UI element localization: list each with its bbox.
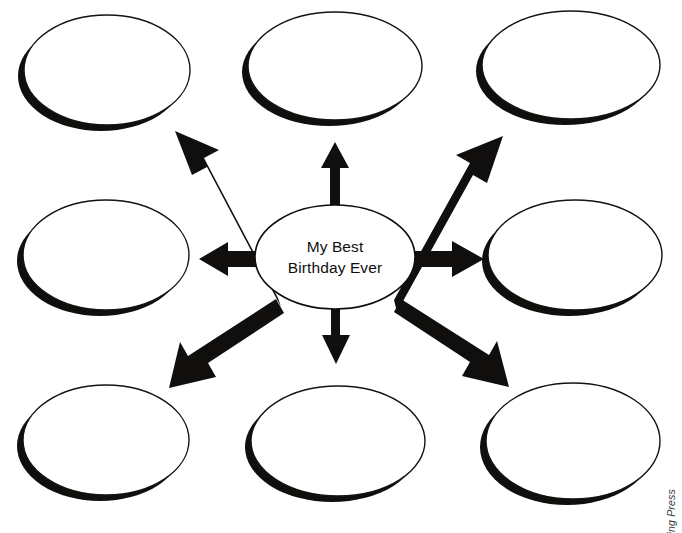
middle-right-oval-body[interactable] [488,200,662,310]
bottom-left-oval[interactable] [17,385,189,501]
center-label-line1: My Best [307,238,364,255]
arrow-to-top-right-icon [394,136,503,312]
top-left-oval-body[interactable] [24,15,190,125]
arrow-to-middle-right-icon [413,241,484,277]
middle-left-oval-body[interactable] [23,200,189,310]
web-graphic-organizer: My Best Birthday Ever [0,0,682,533]
center-label-line2: Birthday Ever [288,259,382,276]
arrow-to-bottom-center-icon [322,305,350,364]
copyright-credit: Balancing Literacy © 2001 Creative Teach… [665,489,677,533]
bottom-right-oval[interactable] [480,383,660,505]
top-center-oval-body[interactable] [248,12,422,120]
bottom-left-oval-body[interactable] [23,385,189,495]
top-center-oval[interactable] [242,12,422,126]
bottom-center-oval-body[interactable] [251,386,425,496]
arrow-to-top-center-icon [321,142,349,213]
middle-left-oval[interactable] [17,200,189,316]
bottom-right-oval-body[interactable] [486,383,660,499]
middle-right-oval[interactable] [482,200,662,316]
arrow-to-bottom-left-icon [169,299,284,388]
top-right-oval[interactable] [476,11,660,125]
top-right-oval-body[interactable] [482,11,660,119]
center-oval[interactable]: My Best Birthday Ever [255,205,415,309]
center-oval-body[interactable] [255,205,415,309]
top-left-oval[interactable] [18,15,190,131]
arrow-to-bottom-right-icon [394,299,509,387]
bottom-center-oval[interactable] [245,386,425,502]
